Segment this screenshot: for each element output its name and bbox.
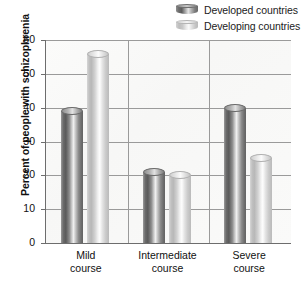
bar-cap-ellipse — [87, 50, 109, 58]
chart-legend: Developed countries Developing countries — [176, 3, 301, 32]
y-axis-tick-label: 40 — [13, 101, 35, 113]
bar-developing-severe — [250, 154, 272, 243]
gridline-vertical — [209, 40, 210, 243]
x-axis-label-line1: Severe — [208, 249, 290, 262]
bar-body — [61, 111, 83, 243]
legend-item-developing: Developing countries — [176, 19, 301, 32]
x-axis-label-line1: Intermediate — [127, 249, 209, 262]
chart-figure: Developed countries Developing countries… — [0, 0, 303, 281]
bar-cap-ellipse — [61, 107, 83, 115]
bar-developing-mild — [87, 50, 109, 243]
x-axis-label-intermediate: Intermediatecourse — [127, 249, 209, 274]
x-axis-label-line1: Mild — [45, 249, 127, 262]
gridline-vertical — [128, 40, 129, 243]
bar-cap-ellipse — [224, 104, 246, 112]
x-axis-label-line2: course — [127, 262, 209, 275]
legend-label-developed: Developed countries — [204, 4, 298, 16]
cylinder-light-icon — [176, 20, 198, 31]
x-axis-label-line2: course — [208, 262, 290, 275]
y-axis-tick-label: 10 — [13, 202, 35, 214]
y-axis-tick-label: 50 — [13, 67, 35, 79]
gridline-horizontal — [46, 74, 291, 75]
bar-cap-ellipse — [143, 168, 165, 176]
x-axis-label-line2: course — [45, 262, 127, 275]
bar-developed-severe — [224, 104, 246, 243]
y-axis-tick-label: 30 — [13, 135, 35, 147]
bar-developing-intermediate — [169, 171, 191, 243]
bar-body — [250, 158, 272, 243]
legend-label-developing: Developing countries — [204, 20, 300, 32]
y-axis-tick-label: 0 — [13, 236, 35, 248]
gridline-horizontal — [46, 40, 291, 41]
x-axis-label-mild: Mildcourse — [45, 249, 127, 274]
bar-body — [87, 54, 109, 243]
bar-body — [143, 172, 165, 243]
bar-body — [224, 108, 246, 243]
bar-developed-mild — [61, 107, 83, 243]
cylinder-dark-icon — [176, 4, 198, 15]
bar-body — [169, 175, 191, 243]
y-axis-tick-label: 20 — [13, 168, 35, 180]
legend-item-developed: Developed countries — [176, 3, 301, 16]
x-axis-label-severe: Severecourse — [208, 249, 290, 274]
y-axis-tick-label: 60 — [13, 33, 35, 45]
plot-area — [45, 40, 291, 243]
x-axis-line — [45, 243, 291, 244]
bar-developed-intermediate — [143, 168, 165, 243]
